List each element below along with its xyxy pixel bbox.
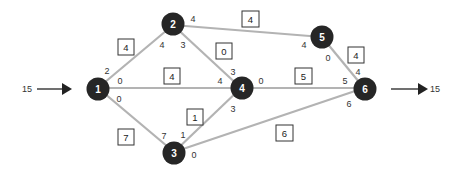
source-arrow: 15	[22, 83, 72, 95]
flow-label-1-3-at-3: 7	[161, 131, 166, 141]
flow-label-4-6-at-6: 5	[342, 76, 347, 86]
flow-network-diagram: 15 15 4 4 7 4 0 1 6 5 4	[0, 0, 457, 174]
capacity-value: 4	[353, 50, 358, 61]
capacity-box-2-5: 4	[242, 11, 259, 27]
node-5: 5	[311, 26, 334, 49]
flow-label-2-4-at-4: 3	[230, 67, 235, 77]
flow-label-1-4-at-1: 0	[117, 76, 122, 86]
flow-label-1-4-at-4: 4	[217, 76, 222, 86]
arrowhead-icon	[62, 83, 72, 95]
edge-1-3	[98, 88, 174, 152]
flow-label-4-6-at-4: 0	[258, 76, 263, 86]
capacity-box-2-4: 0	[216, 43, 232, 59]
node-label: 6	[362, 84, 368, 95]
node-2: 2	[162, 13, 185, 36]
flow-label-5-6-at-6: 4	[355, 67, 360, 77]
capacity-value: 0	[221, 46, 226, 57]
capacity-box-1-4: 4	[164, 68, 180, 84]
flow-label-3-4-at-3: 1	[180, 130, 185, 140]
node-6: 6	[354, 78, 377, 101]
flow-label-3-6-at-3: 0	[191, 150, 196, 160]
flow-label-3-6-at-6: 6	[346, 99, 351, 109]
capacity-value: 5	[301, 71, 306, 82]
capacity-box-1-2: 4	[118, 39, 134, 55]
node-label: 3	[171, 148, 177, 159]
node-4: 4	[231, 77, 254, 100]
source-flow-label: 15	[22, 84, 32, 94]
flow-label-2-5-at-5: 4	[301, 40, 306, 50]
capacity-value: 7	[123, 132, 128, 143]
capacity-value: 4	[169, 71, 174, 82]
sink-flow-label: 15	[430, 84, 440, 94]
capacity-box-3-6: 6	[276, 125, 293, 141]
capacity-box-1-3: 7	[118, 129, 134, 145]
flow-label-1-2-at-2: 4	[159, 40, 164, 50]
capacity-box-3-4: 1	[187, 109, 203, 125]
node-label: 4	[239, 83, 245, 94]
capacity-value: 6	[282, 128, 287, 139]
flow-label-1-2-at-1: 2	[104, 66, 109, 76]
flow-label-3-4-at-4: 3	[230, 104, 235, 114]
capacity-value: 1	[192, 112, 197, 123]
node-3: 3	[163, 142, 186, 165]
flow-label-5-6-at-5: 0	[325, 53, 330, 63]
node-label: 5	[319, 32, 325, 43]
node-label: 1	[95, 84, 101, 95]
arrowhead-icon	[418, 83, 428, 95]
node-label: 2	[170, 19, 176, 30]
edge-3-4	[174, 88, 241, 152]
flow-label-2-5-at-2: 4	[190, 14, 195, 24]
capacity-box-5-6: 4	[348, 47, 364, 63]
sink-arrow: 15	[391, 83, 440, 95]
flow-label-2-4-at-2: 3	[180, 40, 185, 50]
capacity-value: 4	[248, 14, 253, 25]
edge-1-2	[98, 25, 173, 88]
capacity-value: 4	[123, 42, 128, 53]
capacity-box-4-6: 5	[295, 68, 312, 84]
node-1: 1	[87, 78, 110, 101]
flow-label-1-3-at-1: 0	[116, 94, 121, 104]
